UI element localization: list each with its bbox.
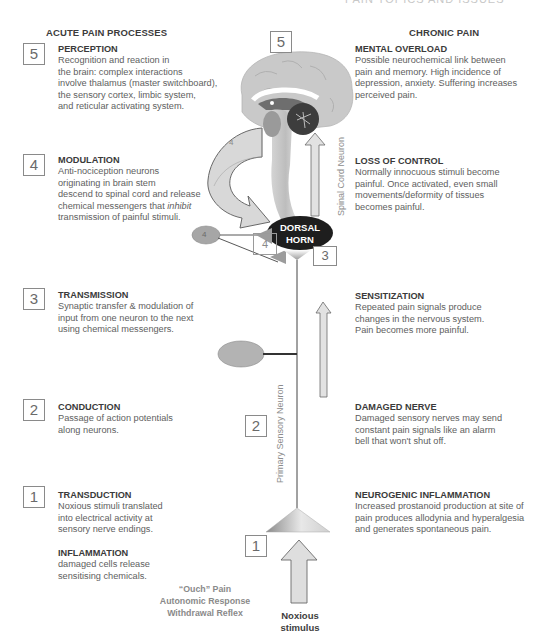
nerve-ending — [266, 508, 330, 532]
section-transmission: TRANSMISSION Synaptic transfer & modulat… — [58, 290, 208, 336]
section-text: Normally innocuous stimuli become painfu… — [355, 167, 545, 213]
section-inflammation: INFLAMMATION damaged cells release sensi… — [58, 548, 208, 582]
step-1-box: 1 — [23, 486, 45, 508]
modulation-arrow-label: 4 — [229, 138, 233, 147]
section-loss-of-control: LOSS OF CONTROL Normally innocuous stimu… — [355, 156, 545, 213]
chronic-pain-heading: CHRONIC PAIN — [409, 27, 479, 38]
stimulus-up-arrow — [281, 540, 317, 603]
page-header-title: PAIN TOPICS AND ISSUES — [345, 0, 505, 5]
noxious-stimulus-label: Noxious stimulus — [270, 610, 330, 634]
section-title: NEUROGENIC INFLAMMATION — [355, 490, 545, 500]
section-neurogenic-inflammation: NEUROGENIC INFLAMMATION Increased prosta… — [355, 490, 545, 536]
section-text: Increased prostanoid production at site … — [355, 501, 545, 536]
section-text: Synaptic transfer & modulation of input … — [58, 301, 208, 336]
section-text: damaged cells release sensitising chemic… — [58, 559, 208, 582]
section-modulation: MODULATION Anti-nociception neurons orig… — [58, 155, 208, 224]
dorsal-horn-label: DORSAL HORN — [267, 222, 333, 246]
step-5-box: 5 — [23, 43, 45, 65]
section-conduction: CONDUCTION Passage of action potentials … — [58, 402, 208, 436]
section-text: Passage of action potentials along neuro… — [58, 413, 208, 436]
section-title: INFLAMMATION — [58, 548, 208, 558]
section-text: Noxious stimuli translated into electric… — [58, 501, 208, 536]
section-sensitization: SENSITIZATION Repeated pain signals prod… — [355, 291, 545, 337]
section-title: TRANSDUCTION — [58, 490, 208, 500]
step-4-box: 4 — [23, 154, 45, 176]
primary-sensory-neuron-label: Primary Sensory Neuron — [275, 384, 285, 483]
section-text: Repeated pain signals produce changes in… — [355, 302, 545, 337]
section-perception: PERCEPTION Recognition and reaction in t… — [58, 44, 208, 113]
acute-pain-heading: ACUTE PAIN PROCESSES — [46, 27, 167, 38]
spinal-cord-up-arrow — [305, 133, 325, 216]
section-text: Anti-nociception neurons originating in … — [58, 166, 208, 224]
modulation-arrow — [208, 128, 270, 228]
emphasis-inhibit: inhibit — [167, 201, 191, 211]
response-labels: “Ouch” Pain Autonomic Response Withdrawa… — [150, 583, 260, 619]
brain-step-5-box: 5 — [270, 31, 292, 53]
step-3-box: 3 — [23, 288, 45, 310]
stimulus-step-1-box: 1 — [245, 535, 267, 557]
dorsal-root-ganglion — [218, 341, 264, 367]
section-text: Possible neurochemical link between pain… — [355, 55, 545, 101]
step-2-box: 2 — [23, 399, 45, 421]
section-title: LOSS OF CONTROL — [355, 156, 545, 166]
section-text: Recognition and reaction in the brain: c… — [58, 55, 208, 113]
section-title: CONDUCTION — [58, 402, 208, 412]
section-text: Damaged sensory nerves may send constant… — [355, 413, 545, 448]
spinal-cord-neuron-label: Spinal Cord Neuron — [336, 137, 346, 216]
section-title: DAMAGED NERVE — [355, 402, 545, 412]
section-title: MENTAL OVERLOAD — [355, 44, 545, 54]
section-damaged-nerve: DAMAGED NERVE Damaged sensory nerves may… — [355, 402, 545, 448]
section-mental-overload: MENTAL OVERLOAD Possible neurochemical l… — [355, 44, 545, 101]
synapse-step-3-box: 3 — [313, 246, 337, 266]
section-transduction: TRANSDUCTION Noxious stimuli translated … — [58, 490, 208, 536]
section-title: MODULATION — [58, 155, 208, 165]
sensitization-up-arrow — [316, 302, 331, 397]
interneuron-label: 4 — [202, 230, 206, 239]
section-title: PERCEPTION — [58, 44, 208, 54]
section-title: TRANSMISSION — [58, 290, 208, 300]
neuron-step-2-box: 2 — [245, 415, 267, 437]
section-title: SENSITIZATION — [355, 291, 545, 301]
